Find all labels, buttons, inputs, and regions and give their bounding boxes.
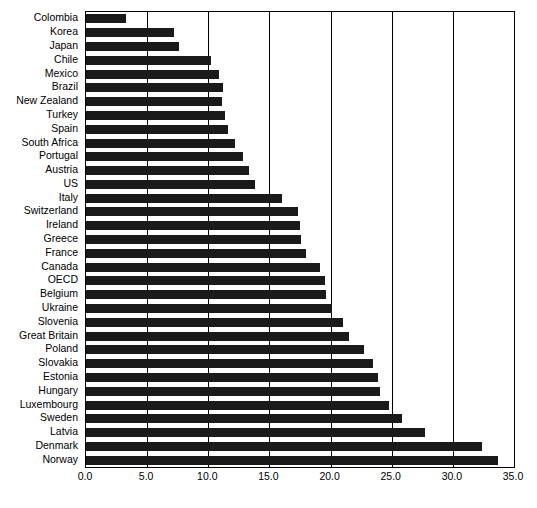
x-tick-label: 5.0 bbox=[139, 470, 154, 482]
bar-chart: ColombiaKoreaJapanChileMexicoBrazilNew Z… bbox=[0, 0, 537, 508]
bar bbox=[86, 304, 332, 313]
category-label: Denmark bbox=[35, 440, 78, 451]
bar bbox=[86, 263, 320, 272]
bar bbox=[86, 207, 298, 216]
category-label: Chile bbox=[54, 54, 78, 65]
bar bbox=[86, 414, 402, 423]
category-label: Belgium bbox=[40, 288, 78, 299]
category-label: Turkey bbox=[46, 109, 78, 120]
bar bbox=[86, 83, 223, 92]
bar bbox=[86, 111, 225, 120]
bar bbox=[86, 345, 364, 354]
bar bbox=[86, 359, 373, 368]
category-label: Ukraine bbox=[42, 302, 78, 313]
category-label: Greece bbox=[44, 233, 78, 244]
category-label: Slovenia bbox=[38, 316, 78, 327]
bar bbox=[86, 166, 249, 175]
category-label: France bbox=[45, 247, 78, 258]
bar-series bbox=[86, 12, 514, 467]
category-label: Estonia bbox=[43, 371, 78, 382]
bar bbox=[86, 442, 482, 451]
bar bbox=[86, 97, 222, 106]
category-label: Hungary bbox=[38, 385, 78, 396]
category-label: Canada bbox=[41, 261, 78, 272]
bar bbox=[86, 318, 343, 327]
x-tick-label: 35.0 bbox=[503, 470, 523, 482]
category-label: Spain bbox=[51, 123, 78, 134]
category-label: Sweden bbox=[40, 412, 78, 423]
bar bbox=[86, 194, 282, 203]
bar bbox=[86, 221, 300, 230]
bar bbox=[86, 28, 174, 37]
bar bbox=[86, 70, 219, 79]
category-label: Luxembourg bbox=[20, 399, 78, 410]
bar bbox=[86, 428, 425, 437]
category-label: US bbox=[63, 178, 78, 189]
category-axis-labels: ColombiaKoreaJapanChileMexicoBrazilNew Z… bbox=[0, 11, 82, 466]
bar bbox=[86, 152, 243, 161]
x-tick-label: 0.0 bbox=[78, 470, 93, 482]
category-label: Norway bbox=[42, 454, 78, 465]
bar bbox=[86, 125, 228, 134]
bar bbox=[86, 180, 255, 189]
bar bbox=[86, 290, 326, 299]
bar bbox=[86, 332, 349, 341]
category-label: Mexico bbox=[45, 68, 78, 79]
category-label: Italy bbox=[59, 192, 78, 203]
bar bbox=[86, 249, 306, 258]
category-label: Korea bbox=[50, 26, 78, 37]
bar bbox=[86, 139, 235, 148]
category-label: Brazil bbox=[52, 81, 78, 92]
category-label: Portugal bbox=[39, 150, 78, 161]
bar bbox=[86, 235, 301, 244]
category-label: Great Britain bbox=[19, 330, 78, 341]
bar bbox=[86, 42, 179, 51]
category-label: Ireland bbox=[46, 219, 78, 230]
x-tick-label: 20.0 bbox=[319, 470, 339, 482]
category-label: OECD bbox=[48, 274, 78, 285]
bar bbox=[86, 14, 126, 23]
category-label: Switzerland bbox=[24, 205, 78, 216]
bar bbox=[86, 56, 211, 65]
bar bbox=[86, 456, 498, 465]
category-label: Austria bbox=[45, 164, 78, 175]
bar bbox=[86, 387, 380, 396]
x-axis-tick-labels: 0.05.010.015.020.025.030.035.0 bbox=[85, 470, 514, 488]
category-label: New Zealand bbox=[16, 95, 78, 106]
category-label: Colombia bbox=[34, 12, 78, 23]
x-tick-label: 10.0 bbox=[197, 470, 217, 482]
x-tick-label: 30.0 bbox=[442, 470, 462, 482]
bar bbox=[86, 401, 389, 410]
x-tick-label: 25.0 bbox=[380, 470, 400, 482]
category-label: Slovakia bbox=[38, 357, 78, 368]
category-label: Poland bbox=[45, 343, 78, 354]
category-label: Latvia bbox=[50, 426, 78, 437]
bar bbox=[86, 373, 378, 382]
bar bbox=[86, 276, 325, 285]
category-label: Japan bbox=[49, 40, 78, 51]
category-label: South Africa bbox=[21, 137, 78, 148]
x-tick-label: 15.0 bbox=[258, 470, 278, 482]
plot-area bbox=[85, 11, 515, 468]
